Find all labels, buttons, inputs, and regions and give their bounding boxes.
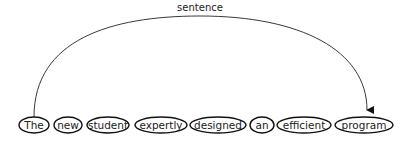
word-label: an bbox=[255, 119, 268, 131]
word-label: efficient bbox=[283, 119, 326, 131]
word-node: The bbox=[19, 117, 49, 133]
word-label: program bbox=[342, 119, 387, 131]
sentence-arc bbox=[34, 16, 367, 117]
word-node: student bbox=[87, 117, 129, 133]
word-label: new bbox=[57, 119, 79, 131]
word-node: expertly bbox=[135, 117, 187, 133]
dependency-diagram: sentence The new student expertly design… bbox=[0, 0, 415, 142]
word-node: new bbox=[54, 117, 82, 133]
word-node: efficient bbox=[277, 117, 331, 133]
word-node: designed bbox=[190, 117, 246, 133]
arc-label: sentence bbox=[177, 2, 223, 13]
word-node: an bbox=[250, 117, 274, 133]
word-label: student bbox=[88, 119, 128, 131]
word-label: expertly bbox=[139, 119, 182, 131]
word-node: program bbox=[335, 117, 393, 133]
word-label: The bbox=[23, 119, 44, 131]
word-label: designed bbox=[194, 119, 242, 131]
